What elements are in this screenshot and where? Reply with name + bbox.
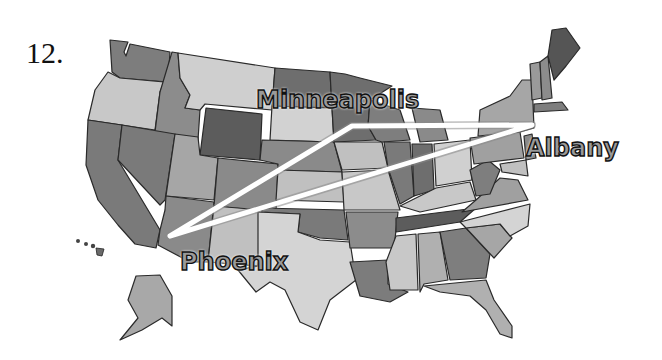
state-indiana (412, 144, 434, 196)
state-hawaii-island (76, 239, 80, 243)
city-label-albany: Albany (526, 134, 619, 162)
state-wyoming (200, 108, 262, 160)
state-washington (110, 40, 170, 82)
state-massachusetts (534, 102, 568, 112)
state-hawaii-island (84, 242, 88, 246)
state-florida (424, 280, 512, 338)
state-iowa (334, 142, 388, 170)
city-label-minneapolis: Minneapolis (256, 86, 419, 114)
us-map-graphic (0, 0, 662, 360)
state-maryland (500, 160, 528, 176)
state-alaska (120, 275, 172, 340)
state-hawaii-island (91, 244, 95, 248)
city-label-phoenix: Phoenix (180, 248, 288, 276)
state-arkansas (346, 212, 398, 248)
us-map: Minneapolis Albany Phoenix (0, 0, 662, 360)
state-maine (548, 28, 580, 80)
state-hawaii-island (96, 248, 104, 256)
